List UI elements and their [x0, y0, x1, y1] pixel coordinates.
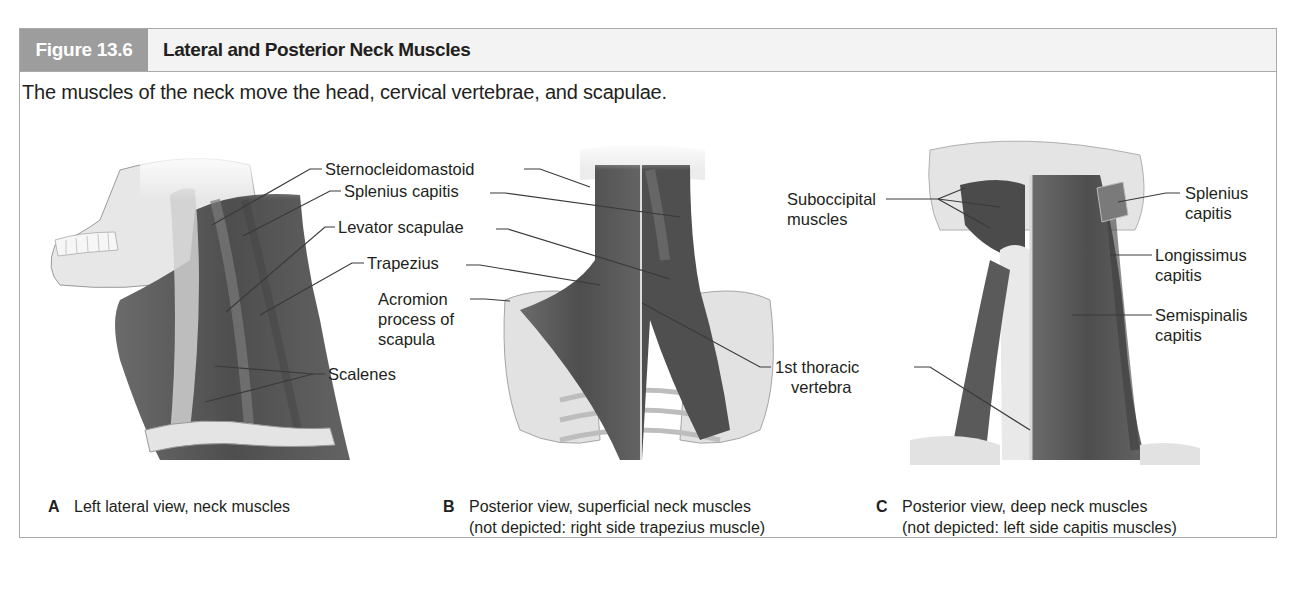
panel-b-letter: B: [443, 496, 469, 517]
panel-b-caption-line1: Posterior view, superficial neck muscles: [469, 498, 751, 515]
panel-c-illustration: [910, 141, 1200, 465]
panel-b-illustration: [504, 140, 773, 460]
panel-a-letter: A: [48, 496, 74, 517]
label-semispinalis-line2: capitis: [1155, 325, 1202, 345]
label-suboccipital-line2: muscles: [787, 209, 848, 229]
label-thoracic-line1: 1st thoracic: [775, 357, 859, 377]
panel-b-caption-line2: (not depicted: right side trapezius musc…: [443, 517, 765, 538]
label-levator-scapulae: Levator scapulae: [338, 217, 464, 237]
panel-c-caption: CPosterior view, deep neck muscles (not …: [876, 496, 1177, 538]
panel-c-caption-line2: (not depicted: left side capitis muscles…: [876, 517, 1177, 538]
panel-a-illustration: [51, 150, 350, 460]
label-splenius-capitis: Splenius capitis: [344, 181, 459, 201]
label-sternocleidomastoid: Sternocleidomastoid: [325, 159, 475, 179]
label-splenius-c-line2: capitis: [1185, 203, 1232, 223]
label-acromion-line1: Acromion: [378, 289, 448, 309]
label-suboccipital-line1: Suboccipital: [787, 189, 876, 209]
label-scalenes: Scalenes: [328, 364, 396, 384]
label-acromion-line2: process of: [378, 309, 454, 329]
label-acromion-line3: scapula: [378, 329, 435, 349]
panel-c-caption-line1: Posterior view, deep neck muscles: [902, 498, 1147, 515]
label-thoracic-line2: vertebra: [791, 377, 852, 397]
label-semispinalis-line1: Semispinalis: [1155, 305, 1248, 325]
label-longissimus-line1: Longissimus: [1155, 245, 1247, 265]
panel-a-caption: ALeft lateral view, neck muscles: [48, 496, 290, 517]
label-trapezius: Trapezius: [367, 253, 439, 273]
label-splenius-c-line1: Splenius: [1185, 183, 1248, 203]
panel-b-caption: BPosterior view, superficial neck muscle…: [443, 496, 765, 538]
panel-c-letter: C: [876, 496, 902, 517]
panel-a-caption-line1: Left lateral view, neck muscles: [74, 498, 290, 515]
label-longissimus-line2: capitis: [1155, 265, 1202, 285]
